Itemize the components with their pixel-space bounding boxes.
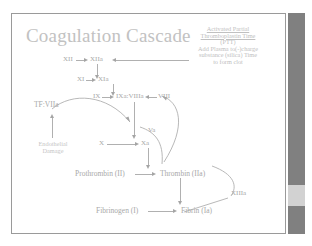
arrow-thrombin-fibrin-line: [180, 178, 181, 202]
arrow-ptt-to-XIIa-line: [116, 60, 189, 61]
arrow-thrombin-fibrin-head: [178, 201, 182, 205]
arrow-IXaVIIIa-X-head: [132, 135, 136, 139]
arrow-endothelial-TFVIIa-head: [50, 114, 54, 118]
scrollbar-thumb[interactable]: [288, 185, 305, 206]
arrow-prothrombin-thrombin-head: [152, 172, 156, 176]
node-XIIIa: XIIIa: [231, 190, 246, 197]
endothelial-damage-label: Endothelial Damage: [25, 141, 81, 154]
node-TF-VIIa: TF:VIIa: [34, 101, 59, 109]
node-prothrombin: Prothrombin (II): [75, 170, 125, 178]
node-XIa: XIa: [98, 76, 109, 83]
arrow-Xa-prothrombin-head: [146, 165, 150, 169]
node-IXa-VIIIa: IXa:VIIIa: [116, 93, 144, 100]
arrow-X-Xa-line: [107, 144, 136, 145]
arrow-prothrombin-thrombin-line: [135, 174, 153, 175]
ptt-body-line3: to form clot: [190, 59, 266, 66]
slide-screenshot: Coagulation Cascade Activated Partial Th…: [0, 0, 312, 246]
arrow-IXaVIIIa-X-line: [134, 102, 135, 136]
arrow-fibrinogen-fibrin-line: [148, 211, 174, 212]
node-thrombin: Thrombin (IIa): [160, 170, 205, 178]
arrow-Xa-prothrombin-line: [148, 148, 149, 166]
node-XIIa: XIIa: [90, 56, 103, 63]
arrow-XI-XIa-head: [92, 78, 96, 82]
slide-canvas: Coagulation Cascade Activated Partial Th…: [11, 13, 286, 234]
node-XI: XI: [77, 76, 84, 83]
arrow-fibrinogen-fibrin-head: [173, 209, 177, 213]
node-X: X: [99, 140, 104, 147]
node-VIII: VIII: [158, 93, 170, 100]
node-XII: XII: [63, 56, 73, 63]
arrow-XII-XIIa-head: [84, 58, 88, 62]
node-IX: IX: [93, 93, 100, 100]
arrow-endothelial-TFVIIa-line: [52, 118, 53, 138]
node-Va: Va: [148, 127, 155, 134]
vertical-scrollbar[interactable]: [288, 13, 305, 234]
arrow-X-Xa-head: [135, 142, 139, 146]
page-title: Coagulation Cascade: [26, 26, 191, 46]
arrow-VIII-IXaVIIIa-line: [149, 97, 157, 98]
ptt-note-block: Activated Partial Thromboplastin Time (P…: [190, 26, 266, 66]
node-fibrinogen: Fibrinogen (I): [96, 207, 138, 215]
node-Xa: Xa: [141, 140, 149, 147]
endothelial-damage-line2: Damage: [25, 148, 81, 155]
arrow-IX-IXaVIIIa-head: [110, 95, 114, 99]
node-fibrin: Fibrin (Ia): [181, 207, 212, 215]
